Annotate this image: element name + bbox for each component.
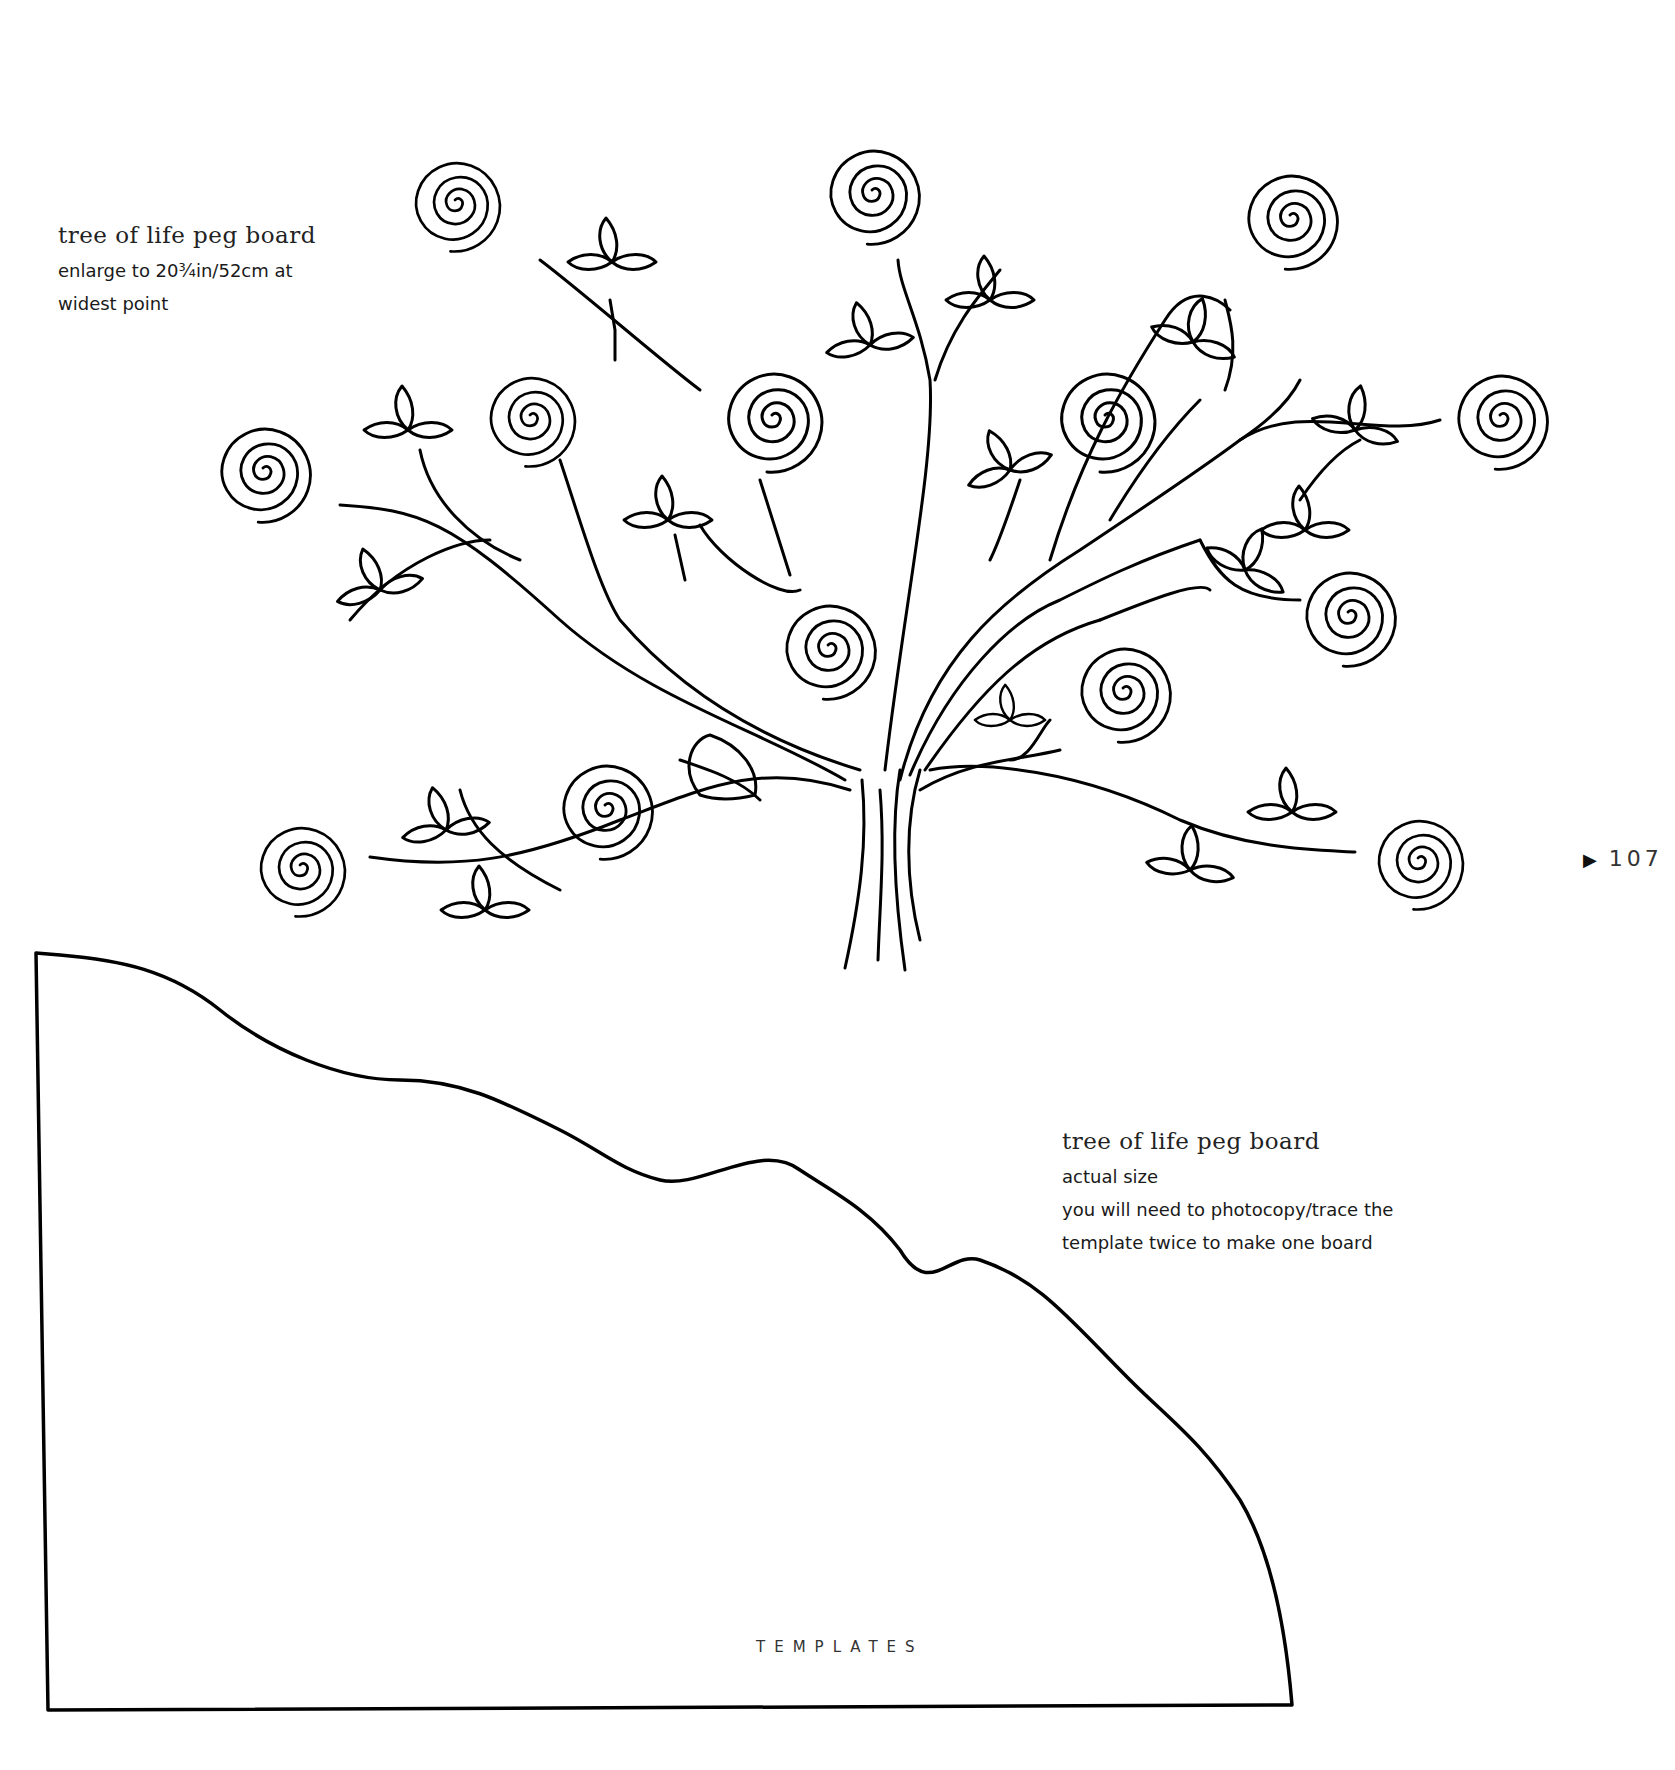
caption-line: enlarge to 20¾in/52cm at xyxy=(58,254,316,287)
caption-line: widest point xyxy=(58,287,316,320)
caption-line: actual size xyxy=(1062,1160,1393,1193)
section-footer: TEMPLATES xyxy=(756,1638,924,1656)
document-page: tree of life peg board enlarge to 20¾in/… xyxy=(0,0,1675,1770)
caption-enlarge: tree of life peg board enlarge to 20¾in/… xyxy=(58,222,316,320)
caption-title: tree of life peg board xyxy=(1062,1128,1393,1154)
triangle-right-icon: ▶ xyxy=(1583,849,1597,870)
page-number-value: 107 xyxy=(1609,846,1663,871)
caption-line: template twice to make one board xyxy=(1062,1226,1393,1259)
board-outline xyxy=(36,953,1292,1710)
caption-line: you will need to photocopy/trace the xyxy=(1062,1193,1393,1226)
page-number: ▶107 xyxy=(1583,846,1663,871)
caption-title: tree of life peg board xyxy=(58,222,316,248)
caption-actual-size: tree of life peg board actual size you w… xyxy=(1062,1128,1393,1259)
